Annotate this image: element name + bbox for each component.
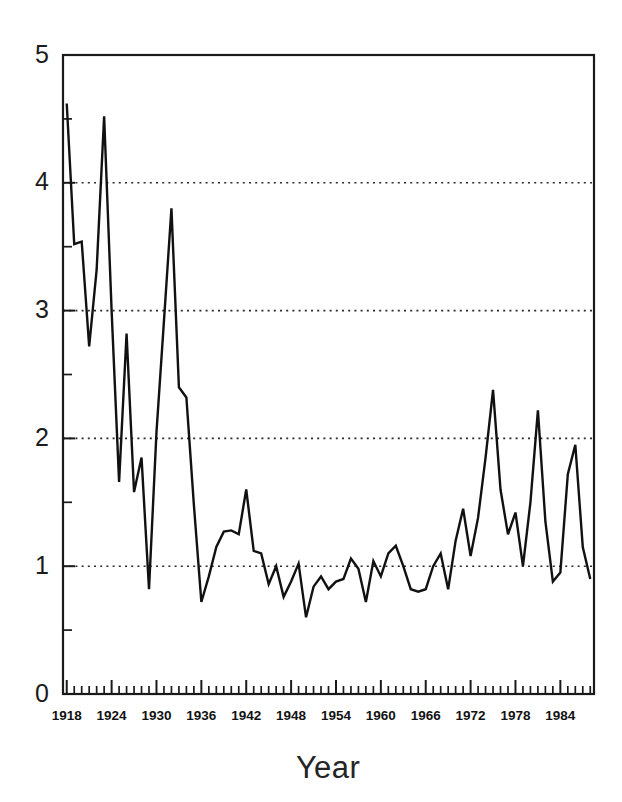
x-tick-label-1942: 1942	[231, 708, 261, 723]
y-tick-label-5: 5	[35, 40, 49, 68]
chart-figure: 012345 191819241930193619421948195419601…	[0, 0, 622, 802]
y-tick-label-3: 3	[35, 295, 49, 323]
x-tick-label-1948: 1948	[276, 708, 307, 723]
chart-background	[0, 0, 622, 802]
x-tick-label-1936: 1936	[186, 708, 217, 723]
x-tick-label-1966: 1966	[411, 708, 442, 723]
x-tick-label-1930: 1930	[141, 708, 171, 723]
x-tick-label-1918: 1918	[52, 708, 83, 723]
x-tick-label-1924: 1924	[97, 708, 128, 723]
x-axis-title: Year	[296, 750, 360, 785]
line-chart: 012345 191819241930193619421948195419601…	[0, 0, 622, 802]
y-tick-label-1: 1	[35, 551, 49, 579]
x-tick-label-1984: 1984	[545, 708, 576, 723]
x-tick-label-1954: 1954	[321, 708, 352, 723]
y-tick-label-4: 4	[35, 167, 49, 195]
y-tick-label-2: 2	[35, 423, 49, 451]
y-tick-label-0: 0	[35, 679, 49, 707]
x-tick-label-1972: 1972	[456, 708, 486, 723]
x-tick-label-1960: 1960	[366, 708, 396, 723]
x-tick-label-1978: 1978	[500, 708, 531, 723]
